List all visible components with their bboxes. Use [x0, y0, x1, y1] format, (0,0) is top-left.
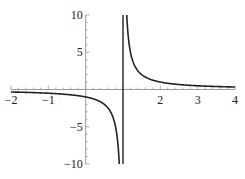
y-tick-label: −5 — [70, 120, 83, 134]
x-tick-label: −2 — [5, 93, 18, 107]
curve-left-branch — [11, 92, 119, 164]
x-tick-label: 3 — [195, 93, 201, 107]
y-tick-label: −10 — [64, 157, 83, 171]
x-tick-label: 4 — [232, 93, 238, 107]
x-tick-label: 2 — [157, 93, 163, 107]
curve-right-branch — [127, 15, 235, 87]
y-tick-label: 5 — [77, 45, 83, 59]
x-tick-label: −1 — [42, 93, 55, 107]
y-tick-label: 10 — [71, 8, 83, 22]
function-plot: −2−1234105−5−10 — [0, 0, 245, 179]
y-axis — [86, 15, 90, 164]
